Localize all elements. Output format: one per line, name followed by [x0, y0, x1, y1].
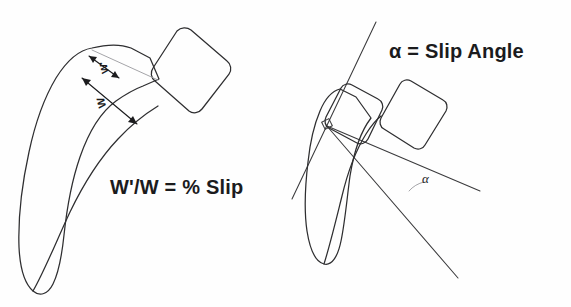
right-panel-block-right — [380, 80, 447, 149]
reference-line-steep — [292, 22, 376, 199]
right-blade-inner-curve — [324, 116, 381, 264]
right-blade-outline — [305, 89, 371, 264]
reference-line-shallow — [327, 126, 480, 191]
dimension-arrow-w — [82, 78, 137, 124]
reference-line-travel — [326, 125, 458, 278]
slip-angle-title-label: α = Slip Angle — [389, 40, 524, 63]
left-block-outline — [151, 28, 230, 113]
left-panel-group — [19, 28, 231, 294]
angle-alpha-label: α — [422, 171, 429, 187]
slip-formula-label: W'/W = % Slip — [110, 176, 243, 199]
diagram-canvas: W'/W = % Slip α = Slip Angle W' W α — [0, 0, 571, 307]
right-panel-block-left — [325, 84, 383, 144]
